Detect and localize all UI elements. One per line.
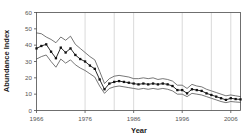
- y-tick-label: 10: [25, 90, 32, 97]
- data-point-marker: [137, 83, 139, 85]
- data-point-marker: [84, 60, 86, 62]
- data-point-marker: [132, 82, 134, 84]
- data-point-marker: [205, 92, 207, 94]
- data-point-marker: [69, 47, 71, 49]
- data-point-marker: [210, 94, 212, 96]
- data-point-marker: [64, 51, 66, 53]
- data-point-marker: [142, 82, 144, 84]
- data-point-marker: [98, 78, 100, 80]
- data-point-marker: [113, 81, 115, 83]
- x-axis-title: Year: [131, 126, 147, 135]
- data-point-marker: [239, 98, 241, 100]
- data-point-marker: [220, 97, 222, 99]
- data-point-marker: [89, 64, 91, 66]
- data-point-marker: [40, 45, 42, 47]
- data-point-marker: [74, 54, 76, 56]
- y-tick-label: 20: [25, 74, 32, 81]
- mean-abundance-series: [37, 44, 241, 100]
- x-tick-label: 2006: [224, 115, 238, 122]
- y-axis-title: Abundance Index: [2, 29, 11, 92]
- data-point-marker: [162, 82, 164, 84]
- data-point-marker: [108, 82, 110, 84]
- data-point-marker: [123, 81, 125, 83]
- data-point-marker: [181, 89, 183, 91]
- data-point-marker: [200, 90, 202, 92]
- data-point-marker: [176, 89, 178, 91]
- data-point-marker: [147, 83, 149, 85]
- upper-confidence-series: [37, 33, 241, 97]
- x-tick-label: 1966: [30, 115, 44, 122]
- data-point-marker: [186, 92, 188, 94]
- data-point-marker: [171, 85, 173, 87]
- x-tick-label: 1986: [127, 115, 141, 122]
- data-point-marker: [50, 51, 52, 53]
- y-axis-tick-labels: 0102030405060: [25, 9, 32, 114]
- data-point-marker: [225, 99, 227, 101]
- data-point-marker: [230, 97, 232, 99]
- data-point-marker: [234, 98, 236, 100]
- data-point-marker: [152, 82, 154, 84]
- data-point-marker: [79, 58, 81, 60]
- abundance-index-chart-figure: 19661976198619962006 0102030405060 Year …: [0, 0, 249, 137]
- data-point-marker: [157, 83, 159, 85]
- data-point-marker: [60, 46, 62, 48]
- data-point-marker: [45, 43, 47, 45]
- data-point-marker: [128, 82, 130, 84]
- data-point-marker: [94, 68, 96, 70]
- x-axis-tick-labels: 19661976198619962006: [30, 115, 239, 122]
- y-tick-label: 30: [25, 58, 32, 65]
- y-tick-label: 0: [29, 107, 33, 114]
- data-point-marker: [191, 88, 193, 90]
- mean-series-markers: [35, 43, 241, 101]
- y-tick-label: 40: [25, 41, 32, 48]
- x-tick-label: 1976: [78, 115, 92, 122]
- data-point-marker: [103, 88, 105, 90]
- plot-gridlines: [85, 13, 231, 111]
- plot-spines: [37, 13, 241, 111]
- data-point-marker: [196, 89, 198, 91]
- data-point-marker: [166, 83, 168, 85]
- chart-canvas: 19661976198619962006 0102030405060 Year …: [0, 0, 249, 137]
- data-point-marker: [55, 57, 57, 59]
- x-tick-label: 1996: [175, 115, 189, 122]
- data-point-marker: [215, 95, 217, 97]
- data-point-marker: [35, 47, 37, 49]
- y-tick-label: 50: [25, 25, 32, 32]
- y-tick-label: 60: [25, 9, 32, 16]
- data-point-marker: [118, 80, 120, 82]
